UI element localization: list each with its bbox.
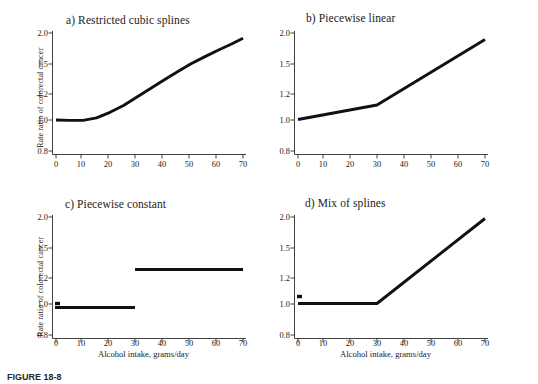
panel-c-axis-lines <box>53 215 247 339</box>
figure-container: a) Restricted cubic splines Rate ratio o… <box>0 0 538 384</box>
panel-b-axes <box>291 31 489 159</box>
panel-c-xticks <box>56 339 243 343</box>
panel-d: d) Mix of splines Alcohol intake, grams/… <box>269 192 538 384</box>
panel-a: a) Restricted cubic splines Rate ratio o… <box>0 0 269 192</box>
panel-a-yticks <box>49 33 53 151</box>
panel-a-xticks <box>56 155 243 159</box>
panel-c: c) Piecewise constant Rate ratio of colo… <box>0 192 269 384</box>
panel-d-curve <box>298 219 485 304</box>
panel-b-curve <box>298 40 485 120</box>
panel-c-axes <box>49 215 247 343</box>
panel-c-plot <box>0 192 269 384</box>
panel-a-curve <box>56 38 243 120</box>
panel-b: b) Piecewise linear 2.0 1.5 1.2 1.0 0.8 … <box>269 0 538 192</box>
panel-c-yticks <box>49 217 53 335</box>
panel-b-plot <box>269 0 538 192</box>
panel-d-axis-lines <box>295 215 489 339</box>
panel-d-xticks <box>298 339 485 343</box>
panel-b-axis-lines <box>295 31 489 155</box>
panel-d-plot <box>269 192 538 384</box>
panel-b-xticks <box>298 155 485 159</box>
panel-b-yticks <box>291 33 295 151</box>
panel-d-axes <box>291 215 489 343</box>
panel-d-yticks <box>291 217 295 335</box>
figure-caption: FIGURE 18-8 <box>7 372 62 382</box>
panel-a-plot <box>0 0 269 192</box>
